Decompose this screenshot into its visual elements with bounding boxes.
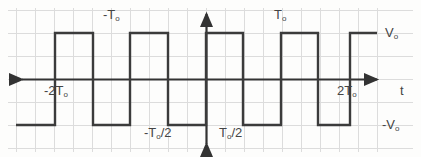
square-wave-figure: -To To Vo -Vo -2To 2To -To/2 To/2 t: [0, 0, 421, 157]
waveform-plot: [0, 0, 421, 157]
